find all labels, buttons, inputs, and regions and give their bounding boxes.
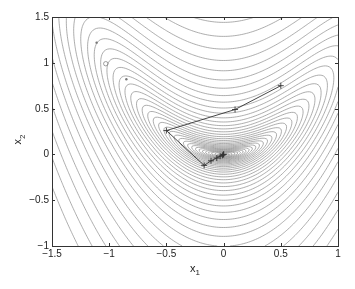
x-tick-label: 1 xyxy=(335,249,341,259)
x-tick-label: −0.5 xyxy=(157,249,177,259)
y-tick-label: 0.5 xyxy=(35,104,49,114)
x-tick-label: 0 xyxy=(221,249,227,259)
x-tick-label: 0.5 xyxy=(274,249,288,259)
y-tick-label: 1 xyxy=(43,58,49,68)
y-tick-label: 1.5 xyxy=(35,12,49,22)
contour-figure: −1.5−1−0.500.51 −1−0.500.511.5 x1 x2 xyxy=(0,0,355,289)
y-tick-label: 0 xyxy=(43,149,49,159)
y-tick-label: −0.5 xyxy=(29,195,49,205)
contour-plot-canvas xyxy=(0,0,355,289)
y-tick-label: −1 xyxy=(38,241,49,251)
x-axis-label: x1 xyxy=(190,262,200,277)
y-axis-label: x2 xyxy=(11,135,26,145)
x-tick-label: −1 xyxy=(103,249,114,259)
